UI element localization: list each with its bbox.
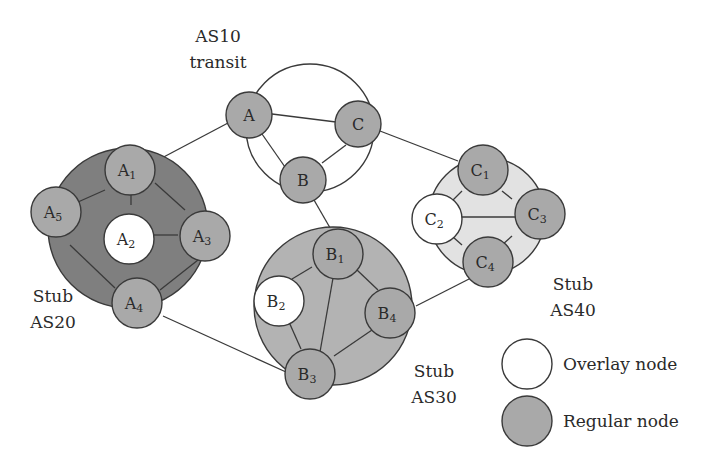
as10-label-line1: AS10 (194, 26, 241, 46)
as40-label-line1: Stub (553, 274, 593, 294)
as10-transit-region: A C B (226, 64, 381, 203)
as40-stub-region: C1 C2 C3 C4 (412, 145, 565, 287)
as20-label-line2: AS20 (29, 312, 76, 332)
legend-regular-label: Regular node (563, 411, 679, 431)
node-label-A: A (242, 106, 255, 125)
as10-label-line2: transit (189, 52, 246, 72)
as40-label-line2: AS40 (549, 300, 596, 320)
link-A1-A (158, 123, 228, 160)
link-C-C1 (380, 131, 458, 161)
as30-label-line2: AS30 (410, 387, 457, 407)
legend: Overlay node Regular node (502, 339, 679, 446)
legend-overlay-label: Overlay node (563, 354, 677, 374)
legend-regular-swatch (502, 396, 552, 446)
legend-overlay-swatch (502, 339, 552, 389)
as30-stub-region: B1 B2 B3 B4 (254, 227, 415, 399)
as30-label-line1: Stub (414, 361, 454, 381)
link-B4-C4 (416, 278, 471, 306)
node-label-C: C (352, 115, 364, 134)
as20-label-line1: Stub (33, 286, 73, 306)
network-overlay-diagram: A C B A1 A5 A2 A3 A4 B1 B2 B3 (0, 0, 707, 468)
node-label-B: B (297, 171, 309, 190)
